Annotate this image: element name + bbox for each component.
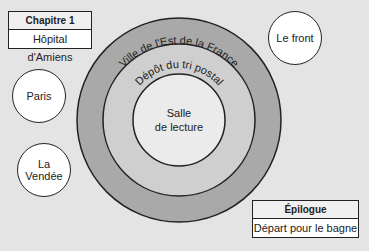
chapter-body: Hôpital d'Amiens bbox=[9, 30, 91, 48]
bubble-la-vendee-label: La Vendée bbox=[18, 158, 70, 182]
inner-circle-label: Salle de lecture bbox=[139, 106, 219, 134]
inner-label-line1: Salle bbox=[139, 106, 219, 120]
bubble-paris-label: Paris bbox=[26, 90, 51, 102]
bubble-la-vendee: La Vendée bbox=[17, 143, 71, 197]
bubble-le-front-label: Le front bbox=[276, 32, 313, 44]
bubble-le-front: Le front bbox=[268, 11, 322, 65]
chapter-header: Chapitre 1 bbox=[9, 12, 91, 30]
epilogue-header: Épilogue bbox=[253, 201, 358, 219]
inner-label-line2: de lecture bbox=[139, 120, 219, 134]
chapter-box: Chapitre 1 Hôpital d'Amiens bbox=[8, 11, 92, 49]
epilogue-box: Épilogue Départ pour le bagne bbox=[252, 200, 359, 238]
epilogue-body: Départ pour le bagne bbox=[253, 219, 358, 237]
bubble-paris: Paris bbox=[12, 69, 66, 123]
